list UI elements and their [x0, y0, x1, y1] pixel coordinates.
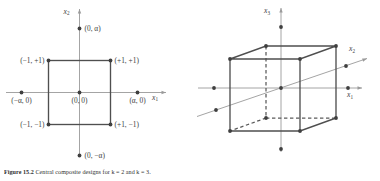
x1-axis-label-3d: x1 — [346, 90, 353, 100]
axial-point-x3-pos — [279, 25, 283, 29]
point-factorial-p1p1 — [109, 59, 113, 63]
point-axial-neg-alpha-0 — [20, 91, 24, 95]
x2-axis-label: x2 — [63, 7, 70, 17]
figure-container: x2 x1 (−1, +1) (+1, +1) (−1, −1) (+1, −1… — [0, 0, 380, 181]
label-axial-0-neg-alpha: (0, −α) — [85, 151, 106, 160]
cube-vertex-7 — [264, 116, 268, 120]
cube-vertex-2 — [298, 57, 302, 61]
cube-vertex-3 — [264, 44, 268, 48]
point-axial-0-neg-alpha — [78, 154, 82, 158]
hidden-edge-to-front-left — [230, 118, 266, 131]
label-factorial-m1p1: (−1, +1) — [20, 56, 45, 65]
label-factorial-p1m1: (+1, −1) — [115, 120, 140, 129]
label-axial-0-alpha: (0, α) — [85, 24, 102, 33]
point-factorial-m1p1 — [47, 59, 51, 63]
point-center-00 — [78, 91, 82, 95]
cube-bottom-front — [230, 118, 336, 131]
point-factorial-p1m1 — [109, 123, 113, 127]
x1-axis-arrow-icon-3d — [358, 86, 363, 89]
axial-point-x2-neg — [214, 108, 218, 112]
cube-vertex-1 — [228, 57, 232, 61]
cube-top-face — [230, 46, 336, 59]
figure-caption: Figure 15.2 Central composite designs fo… — [4, 168, 376, 176]
cube-vertex-5 — [228, 129, 232, 133]
x3-axis-label: x3 — [263, 6, 270, 16]
label-factorial-p1p1: (+1, +1) — [115, 56, 140, 65]
axial-point-x3-neg — [279, 147, 283, 151]
label-center-00: (0, 0) — [71, 96, 88, 105]
x3-axis-arrow-icon — [279, 8, 282, 13]
x2-axis-arrow-icon — [78, 9, 81, 14]
axial-point-x1-neg — [212, 86, 216, 90]
cube-vertices — [228, 44, 338, 133]
plot-k2: x2 x1 (−1, +1) (+1, +1) (−1, −1) (+1, −1… — [0, 0, 190, 160]
label-factorial-m1m1: (−1, −1) — [20, 120, 45, 129]
label-axial-alpha-0: (α, 0) — [129, 96, 146, 105]
figure-caption-text: Central composite designs for k = 2 and … — [35, 169, 150, 175]
axial-point-x2-pos — [344, 64, 348, 68]
plot-k3: x3 x1 x2 — [190, 0, 380, 160]
cube-vertex-4 — [334, 44, 338, 48]
label-axial-neg-alpha-0: (−α, 0) — [11, 96, 32, 105]
panel-central-composite-k3: x3 x1 x2 — [190, 0, 380, 160]
point-axial-0-alpha — [78, 27, 82, 31]
point-factorial-m1m1 — [47, 123, 51, 127]
x2-axis-label-3d: x2 — [348, 44, 355, 54]
x1-axis-label: x1 — [151, 93, 158, 103]
center-point-k3 — [279, 86, 283, 90]
point-axial-alpha-0 — [136, 91, 140, 95]
x2-axis-arrow-icon-3d — [362, 59, 367, 62]
cube-vertex-6 — [298, 129, 302, 133]
panel-central-composite-k2: x2 x1 (−1, +1) (+1, +1) (−1, −1) (+1, −1… — [0, 0, 190, 160]
figure-caption-label: Figure 15.2 — [4, 169, 34, 175]
cube-vertex-8 — [334, 116, 338, 120]
x1-axis-arrow-icon — [162, 91, 167, 94]
